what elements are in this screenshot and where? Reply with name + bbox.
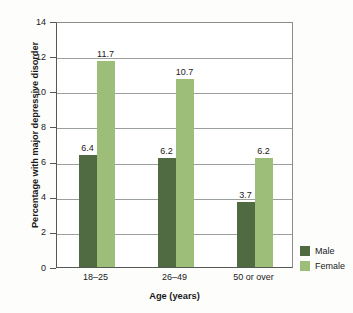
legend-label: Female (315, 261, 345, 271)
y-axis-title: Percentage with major depressive disorde… (30, 12, 40, 258)
y-tick-label: 0 (18, 264, 46, 273)
legend-swatch-icon (300, 246, 310, 256)
bar-value-label: 10.7 (167, 68, 203, 77)
chart-legend: MaleFemale (300, 243, 353, 273)
legend-item-male: Male (300, 243, 353, 258)
bar-value-label: 6.2 (246, 147, 282, 156)
x-axis-title: Age (years) (56, 291, 293, 301)
y-tick-label: 2 (18, 228, 46, 237)
bar-value-label: 11.7 (88, 50, 124, 59)
bar-male-2 (237, 202, 255, 267)
y-tick-label: 14 (18, 18, 46, 27)
legend-swatch-icon (300, 261, 310, 271)
legend-item-female: Female (300, 258, 353, 273)
plot-area: 6.411.76.210.73.76.2 (56, 22, 293, 268)
y-tick-label: 12 (18, 53, 46, 62)
bar-female-0 (97, 61, 115, 267)
bar-male-1 (158, 158, 176, 267)
y-tick-label: 6 (18, 158, 46, 167)
x-tick-label: 18–25 (56, 272, 136, 282)
bar-female-1 (176, 79, 194, 267)
gridline (57, 93, 292, 94)
legend-label: Male (315, 246, 335, 256)
gridline (57, 128, 292, 129)
y-tick-label: 8 (18, 123, 46, 132)
bar-male-0 (79, 155, 97, 267)
bar-chart-figure: Percentage with major depressive disorde… (0, 0, 353, 313)
bar-female-2 (255, 158, 273, 267)
x-tick-label: 50 or over (214, 272, 294, 282)
x-tick-label: 26–49 (135, 272, 215, 282)
y-tick-label: 10 (18, 88, 46, 97)
y-tick-mark (50, 268, 56, 269)
y-tick-label: 4 (18, 193, 46, 202)
